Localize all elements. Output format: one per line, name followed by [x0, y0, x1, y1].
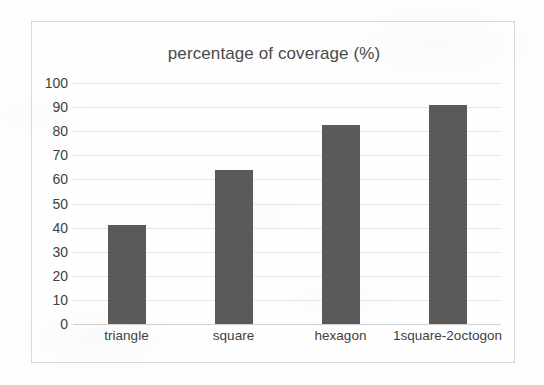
x-tick-label-hexagon: hexagon	[315, 328, 367, 343]
y-tick-label-90: 90	[34, 99, 68, 115]
y-tick-label-40: 40	[34, 220, 68, 236]
y-tick-label-100: 100	[34, 75, 68, 91]
scanned-page-background: percentage of coverage (%) 1009080706050…	[0, 0, 544, 385]
y-tick-label-10: 10	[34, 292, 68, 308]
y-axis-tick-labels: 1009080706050403020100	[32, 83, 68, 324]
x-axis-tick-labels: trianglesquarehexagon1square-2octogon	[73, 22, 501, 364]
x-tick-label-square: square	[213, 328, 254, 343]
y-tick-label-30: 30	[34, 244, 68, 260]
y-tick-label-0: 0	[34, 316, 68, 332]
y-tick-label-80: 80	[34, 123, 68, 139]
y-tick-label-60: 60	[34, 171, 68, 187]
y-tick-label-50: 50	[34, 196, 68, 212]
x-tick-label-triangle: triangle	[104, 328, 148, 343]
y-tick-label-20: 20	[34, 268, 68, 284]
y-tick-label-70: 70	[34, 147, 68, 163]
chart-frame: percentage of coverage (%) 1009080706050…	[31, 21, 515, 363]
x-tick-label-1square-2octogon: 1square-2octogon	[393, 328, 502, 343]
